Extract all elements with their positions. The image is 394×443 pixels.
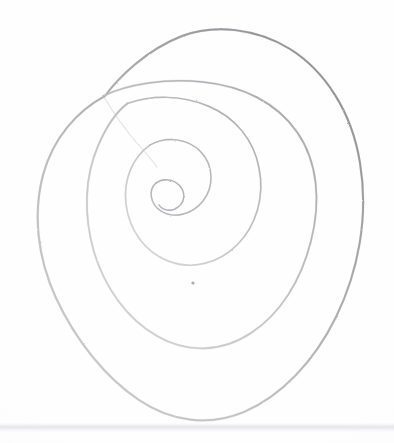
halo-second-turn	[87, 81, 317, 349]
halo-core-hook	[156, 180, 184, 210]
stray-graphite-dot	[191, 281, 194, 284]
halo-third-turn	[125, 97, 260, 265]
spiral-second-turn	[87, 81, 317, 349]
spiral-tail-wisp	[104, 97, 157, 167]
spiral-drawing	[0, 0, 394, 443]
graphite-halo	[38, 29, 363, 420]
sketch-canvas: Hand-drawn pencil spiral graphite pencil…	[0, 0, 394, 443]
